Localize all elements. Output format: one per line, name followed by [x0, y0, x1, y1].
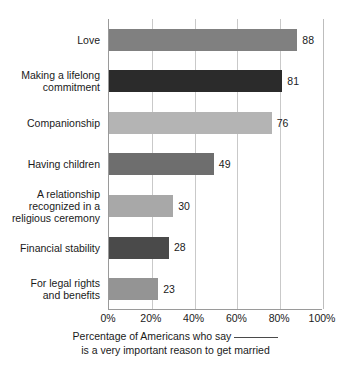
category-label-line: Companionship: [27, 117, 100, 129]
category-label-line: A relationship: [12, 188, 100, 200]
category-label-line: Love: [77, 34, 100, 46]
bar[interactable]: [109, 278, 158, 300]
bar-value-label: 81: [287, 76, 299, 87]
category-label-line: Financial stability: [20, 242, 100, 254]
category-label: For legal rightsand benefits: [0, 268, 104, 310]
bar-value-label: 23: [163, 284, 175, 295]
bar-row[interactable]: 49: [109, 144, 322, 186]
category-label-column: LoveMaking a lifelongcommitmentCompanion…: [0, 19, 104, 310]
category-label: Having children: [0, 144, 104, 186]
bar-row[interactable]: 30: [109, 185, 322, 227]
x-tick-20: 20%: [140, 312, 161, 325]
bar[interactable]: [109, 195, 173, 217]
category-label: Love: [0, 19, 104, 61]
x-tick-100: 100%: [309, 312, 336, 325]
plot-area: 88817649302823: [108, 19, 322, 310]
bar-row[interactable]: 23: [109, 268, 322, 310]
category-label-line: For legal rights: [31, 277, 100, 289]
bar[interactable]: [109, 237, 169, 259]
bar[interactable]: [109, 153, 214, 175]
bar-value-label: 28: [174, 242, 186, 253]
caption-line-2: is a very important reason to get marrie…: [0, 344, 351, 358]
category-label-line: and benefits: [31, 289, 100, 301]
bar-row[interactable]: 88: [109, 19, 322, 61]
fill-in-blank-rule: [234, 328, 278, 338]
bar[interactable]: [109, 112, 272, 134]
bar-value-label: 30: [178, 201, 190, 212]
category-label: Companionship: [0, 102, 104, 144]
caption-line-1-text: Percentage of Americans who say: [73, 330, 232, 342]
bar-value-label: 76: [277, 118, 289, 129]
x-axis-tick-labels: 0%20%40%60%80%100%: [108, 312, 322, 326]
bar-chart: LoveMaking a lifelongcommitmentCompanion…: [0, 0, 351, 372]
category-label-line: recognized in a: [12, 200, 100, 212]
bar-row[interactable]: 28: [109, 227, 322, 269]
x-tick-0: 0%: [100, 312, 115, 325]
x-tick-60: 60%: [226, 312, 247, 325]
gridline-100: [323, 19, 324, 309]
bar-row[interactable]: 81: [109, 61, 322, 103]
bar-row[interactable]: 76: [109, 102, 322, 144]
bar-value-label: 49: [219, 159, 231, 170]
category-label-line: Making a lifelong: [21, 69, 100, 81]
caption-line-1: Percentage of Americans who say: [0, 328, 351, 344]
x-tick-40: 40%: [183, 312, 204, 325]
bar-value-label: 88: [302, 35, 314, 46]
category-label-line: religious ceremony: [12, 212, 100, 224]
category-label: Financial stability: [0, 227, 104, 269]
bar[interactable]: [109, 29, 297, 51]
x-tick-80: 80%: [269, 312, 290, 325]
category-label-line: commitment: [21, 81, 100, 93]
category-label-line: Having children: [28, 158, 100, 170]
category-label: A relationshiprecognized in areligious c…: [0, 185, 104, 227]
x-axis-caption: Percentage of Americans who say is a ver…: [0, 328, 351, 357]
bar[interactable]: [109, 70, 282, 92]
category-label: Making a lifelongcommitment: [0, 61, 104, 103]
